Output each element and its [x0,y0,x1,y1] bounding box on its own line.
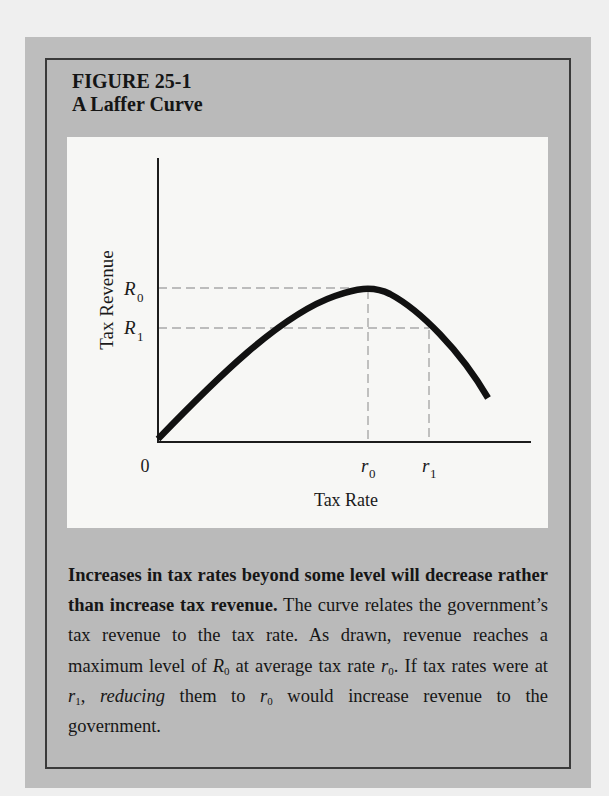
origin-label: 0 [141,456,150,476]
y-tick-r0: R 0 [123,278,144,305]
svg-text:R: R [123,317,136,338]
y-axis-label: Tax Revenue [96,250,117,349]
svg-text:0: 0 [137,290,144,305]
svg-text:r: r [361,455,369,476]
svg-text:1: 1 [137,329,144,344]
reference-lines [158,288,429,442]
figure-caption: Increases in tax rates beyond some level… [68,560,548,741]
laffer-curve [158,289,488,439]
svg-text:r: r [422,455,430,476]
x-tick-r0: r 0 [361,455,376,481]
svg-text:R: R [123,278,136,299]
x-tick-r1: r 1 [422,455,437,481]
svg-text:1: 1 [430,466,437,481]
y-tick-r1: R 1 [123,317,144,344]
caption-emphasis: reducing [100,686,165,706]
svg-text:0: 0 [369,466,376,481]
x-axis-label: Tax Rate [314,490,378,510]
